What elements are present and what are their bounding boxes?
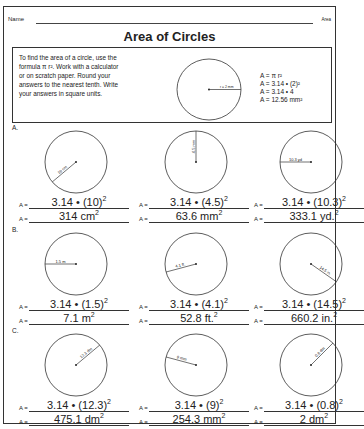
equation-prefix: A = (139, 202, 148, 208)
topic-label: Area (321, 17, 331, 22)
answer-blank[interactable]: 314 cm2 (29, 207, 129, 223)
circle-diagram: 0.8 dm (266, 331, 356, 399)
equation-prefix: A = (19, 405, 28, 411)
problem-item: 10 cmA =3.14 • (10)2A =314 cm2 (19, 128, 129, 218)
formula-line: A = 3.14 • (2)² (260, 80, 302, 88)
answer-blank[interactable]: 52.8 ft.2 (149, 309, 249, 325)
equation-prefix: A = (254, 318, 263, 324)
radius-label: 4.5 mm (191, 139, 196, 153)
equation-prefix: A = (19, 202, 28, 208)
example-circle: r = 2 mm (176, 58, 242, 121)
answer-line: A =314 cm2 (19, 209, 129, 223)
section-label: A. (12, 124, 18, 131)
equation-prefix: A = (254, 216, 263, 222)
equation-prefix: A = (139, 318, 148, 324)
name-label: Name (8, 16, 24, 22)
radius-label: 9 mm (176, 354, 188, 362)
answer-blank[interactable]: 660.2 in.2 (264, 309, 364, 325)
formula-line: A = 3.14 • 4 (260, 88, 302, 96)
answer-blank[interactable]: 63.6 mm2 (149, 207, 249, 223)
problem-item: 0.8 dmA =3.14 • (0.8)2A =2 dm2 (254, 331, 364, 421)
answer-line: A =7.1 m2 (19, 311, 129, 325)
problem-item: 1.5 mA =3.14 • (1.5)2A =7.1 m2 (19, 230, 129, 320)
answer-line: A =475.1 dm2 (19, 412, 129, 426)
equation-prefix: A = (139, 216, 148, 222)
section-label: B. (12, 226, 18, 233)
page-title: Area of Circles (4, 29, 335, 44)
section-label: C. (12, 327, 19, 334)
problem-item: 10.3 ydA =3.14 • (10.3)2A =333.1 yd.2 (254, 128, 364, 218)
problem-item: 12.3 dmA =3.14 • (12.3)2A =475.1 dm2 (19, 331, 129, 421)
problem-item: 9 mmA =3.14 • (9)2A =254.3 mm2 (139, 331, 249, 421)
problem-item: 14.5 in.A =3.14 • (14.5)2A =660.2 in.2 (254, 230, 364, 320)
equation-prefix: A = (19, 304, 28, 310)
radius-label: 4.1 ft. (175, 261, 186, 268)
equation-prefix: A = (139, 419, 148, 425)
circle-diagram: 10 cm (31, 128, 121, 196)
intro-box: To find the area of a circle, use the fo… (12, 47, 332, 123)
formula-line: A = 12.56 mm² (260, 96, 302, 104)
equation-prefix: A = (139, 405, 148, 411)
equation-prefix: A = (19, 318, 28, 324)
answer-blank[interactable]: 333.1 yd.2 (264, 207, 364, 223)
circle-diagram: 4.1 ft. (151, 230, 241, 298)
problem-item: 4.5 mmA =3.14 • (4.5)2A =63.6 mm2 (139, 128, 249, 218)
equation-prefix: A = (254, 405, 263, 411)
circle-diagram: 12.3 dm (31, 331, 121, 399)
problem-item: 4.1 ft.A =3.14 • (4.1)2A =52.8 ft.2 (139, 230, 249, 320)
answer-line: A =333.1 yd.2 (254, 209, 364, 223)
circle-diagram: 14.5 in. (266, 230, 356, 298)
circle-diagram: 10.3 yd (266, 128, 356, 196)
answer-line: A =2 dm2 (254, 412, 364, 426)
formula-line: A = π r² (260, 72, 302, 80)
answer-line: A =52.8 ft.2 (139, 311, 249, 325)
answer-line: A =254.3 mm2 (139, 412, 249, 426)
example-radius-label: r = 2 mm (220, 85, 234, 89)
equation-prefix: A = (254, 419, 263, 425)
answer-blank[interactable]: 475.1 dm2 (29, 410, 129, 426)
answer-blank[interactable]: 7.1 m2 (29, 309, 129, 325)
answer-blank[interactable]: 2 dm2 (264, 410, 364, 426)
equation-prefix: A = (19, 216, 28, 222)
equation-prefix: A = (254, 202, 263, 208)
name-input-line[interactable] (36, 23, 313, 24)
answer-line: A =63.6 mm2 (139, 209, 249, 223)
example-formula: A = π r² A = 3.14 • (2)² A = 3.14 • 4 A … (260, 72, 302, 104)
answer-blank[interactable]: 254.3 mm2 (149, 410, 249, 426)
name-row: Name Area (8, 14, 331, 26)
circle-diagram: 9 mm (151, 331, 241, 399)
equation-prefix: A = (139, 304, 148, 310)
instructions-text: To find the area of a circle, use the fo… (19, 53, 123, 98)
circle-diagram: 4.5 mm (151, 128, 241, 196)
answer-line: A =660.2 in.2 (254, 311, 364, 325)
radius-label: 1.5 m (55, 259, 66, 264)
equation-prefix: A = (19, 419, 28, 425)
radius-label: 10.3 yd (289, 157, 302, 162)
equation-prefix: A = (254, 304, 263, 310)
worksheet-page: Name Area Area of Circles To find the ar… (3, 6, 336, 424)
circle-diagram: 1.5 m (31, 230, 121, 298)
